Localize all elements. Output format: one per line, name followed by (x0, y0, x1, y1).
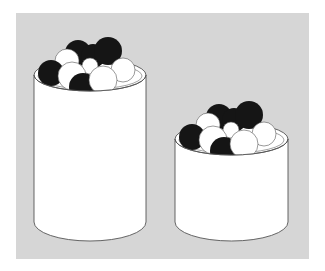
two-jars-illustration (0, 0, 325, 271)
tall-jar-body (34, 75, 146, 241)
tall-jar (34, 37, 146, 241)
